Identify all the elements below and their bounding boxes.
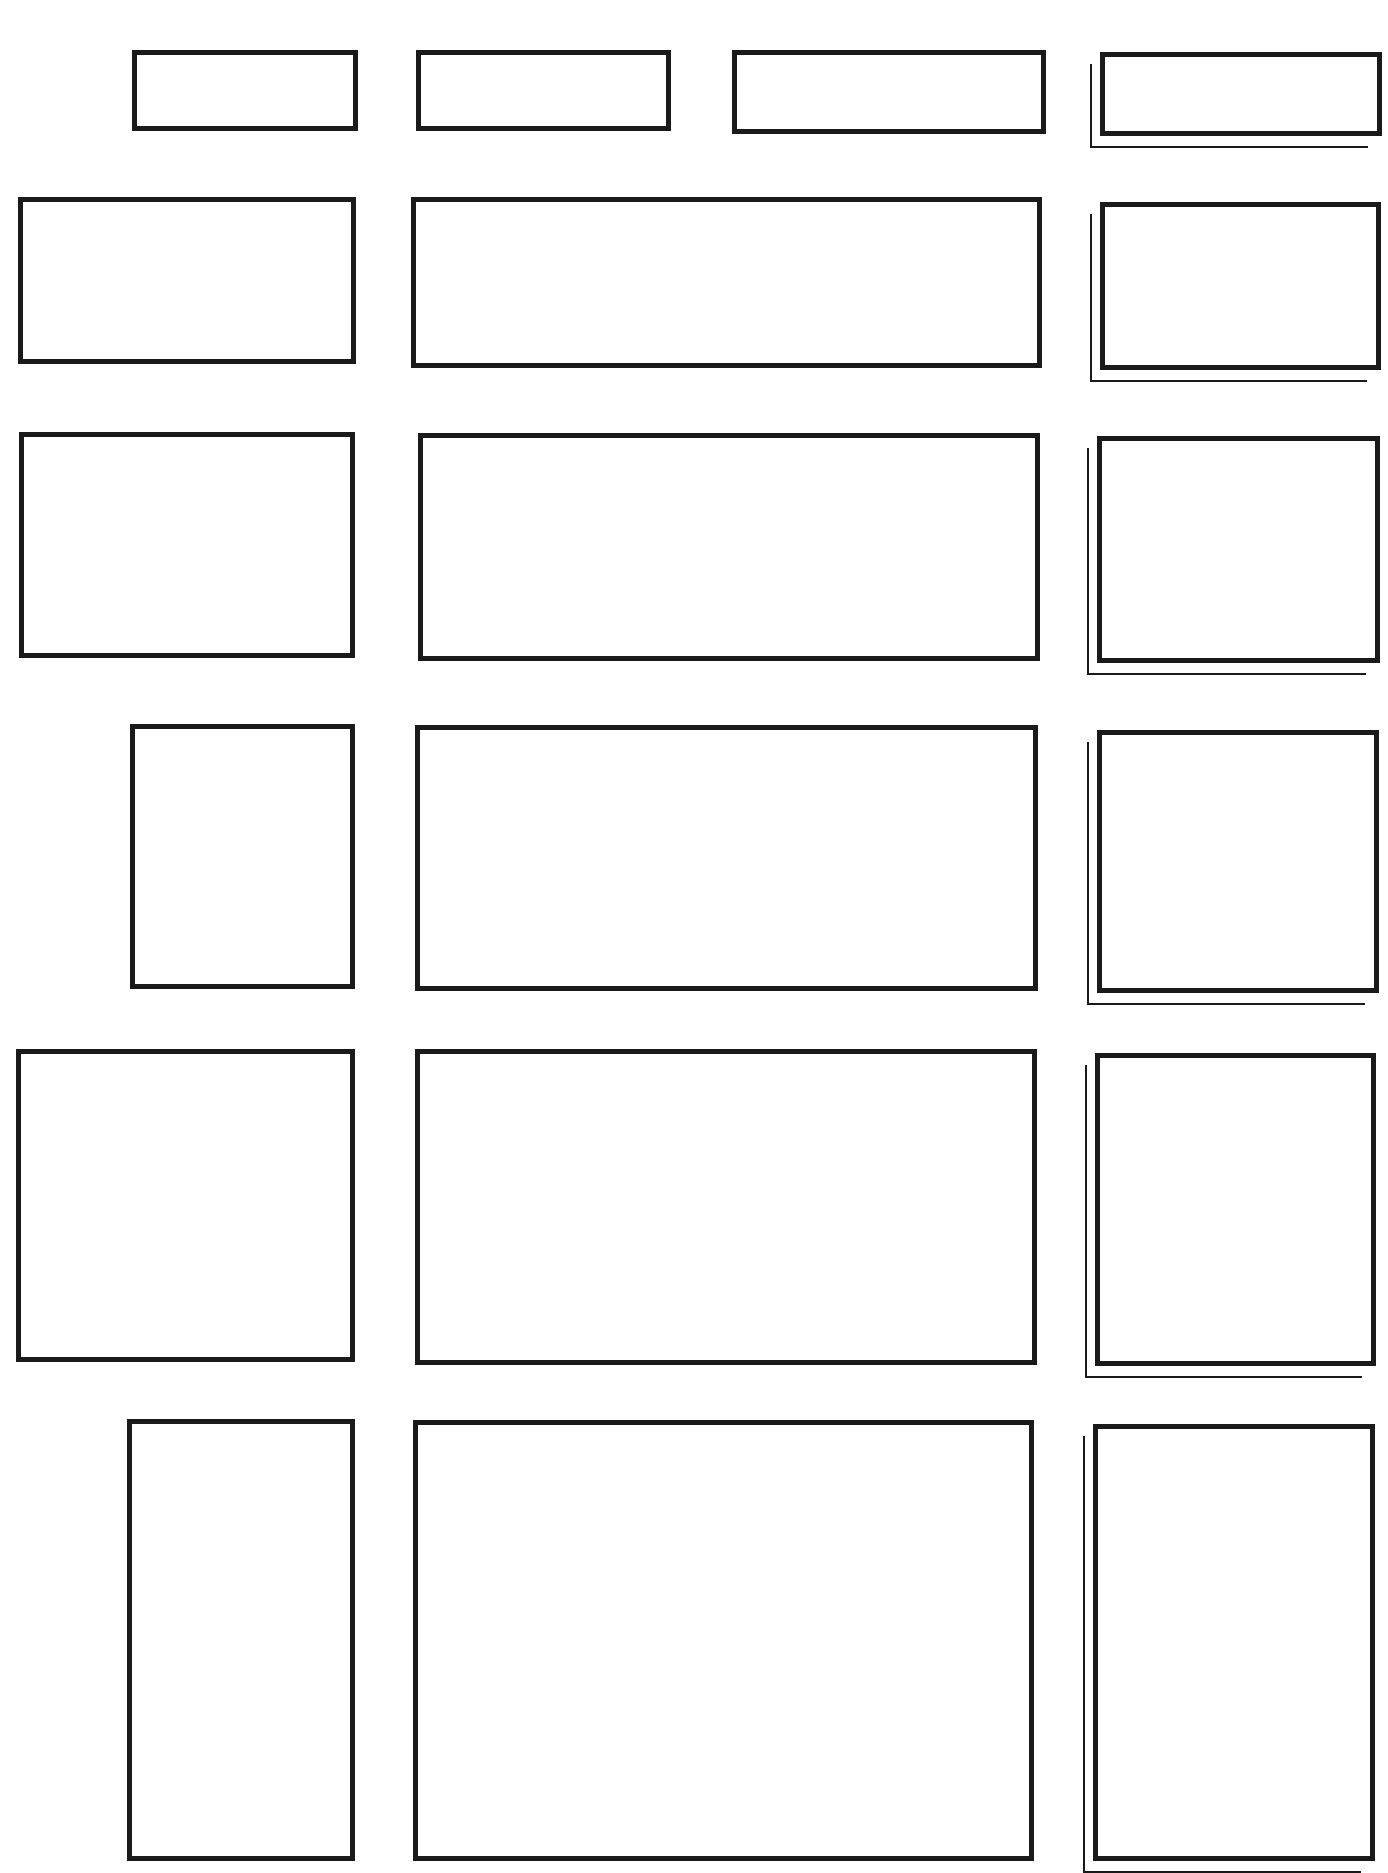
- box-r1-c4: [1100, 52, 1382, 136]
- box-r5-c3: [1095, 1053, 1376, 1366]
- box-r4-c1: [130, 724, 355, 989]
- box-r3-c3: [1097, 436, 1380, 663]
- box-r3-c1: [19, 432, 355, 658]
- box-r1-c1: [132, 50, 358, 131]
- box-r2-c3: [1100, 202, 1381, 370]
- box-r4-c2: [415, 725, 1038, 991]
- box-r6-c3: [1093, 1424, 1375, 1861]
- box-r5-c1: [16, 1049, 355, 1362]
- box-r2-c1: [18, 197, 356, 364]
- box-r6-c1: [127, 1419, 355, 1861]
- box-r6-c2: [413, 1420, 1034, 1861]
- box-r1-c2: [416, 50, 671, 131]
- box-r2-c2: [411, 197, 1042, 368]
- box-r3-c2: [418, 433, 1040, 661]
- box-r4-c3: [1097, 730, 1379, 993]
- box-r5-c2: [415, 1049, 1037, 1365]
- box-r1-c3: [732, 50, 1046, 134]
